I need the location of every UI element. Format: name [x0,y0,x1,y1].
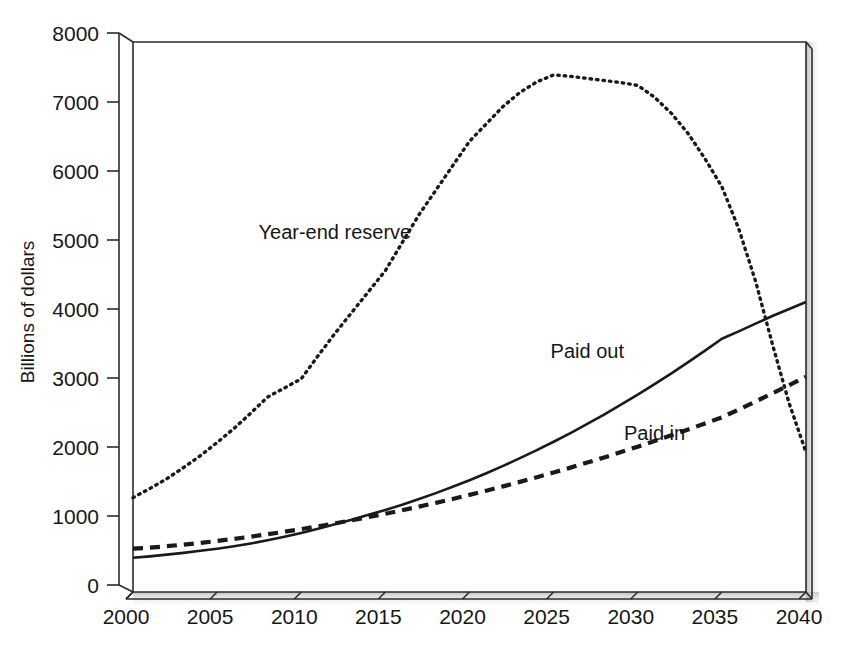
x-tick-label-2030: 2030 [607,605,654,628]
y-axis-ticks [107,33,119,585]
series-layer [133,75,806,558]
x-tick-label-2010: 2010 [271,605,318,628]
y-axis-title: Billions of dollars [17,241,38,384]
plot-shadow [133,42,822,608]
y-tick-1000: 1000 [52,505,99,528]
series-line-paid-in [133,377,806,549]
series-label-paid-in: Paid in [624,422,685,444]
y-tick-2000: 2000 [52,436,99,459]
y-axis-labels: 8000 7000 6000 5000 4000 3000 2000 1000 … [52,22,99,597]
x-tick-label-2000: 2000 [103,605,150,628]
series-line-paid-out [133,302,806,558]
x-tick-label-2005: 2005 [187,605,234,628]
x-axis-labels: 200020052010201520202025203020352040 [103,605,823,628]
y-tick-7000: 7000 [52,91,99,114]
chart-container: 8000 7000 6000 5000 4000 3000 2000 1000 … [0,0,845,655]
y-tick-3000: 3000 [52,367,99,390]
x-tick-2000 [126,592,133,599]
series-line-year-end-reserve [133,75,806,498]
x-tick-label-2025: 2025 [523,605,570,628]
series-label-paid-out: Paid out [551,340,625,362]
axis-frame [119,33,812,599]
y-tick-4000: 4000 [52,298,99,321]
series-label-year-end-reserve: Year-end reserve [259,221,412,243]
y-tick-0: 0 [87,574,99,597]
x-tick-label-2015: 2015 [355,605,402,628]
line-chart: 8000 7000 6000 5000 4000 3000 2000 1000 … [0,0,845,655]
y-tick-5000: 5000 [52,229,99,252]
x-tick-label-2040: 2040 [776,605,823,628]
x-tick-label-2020: 2020 [439,605,486,628]
x-tick-label-2035: 2035 [692,605,739,628]
y-tick-6000: 6000 [52,160,99,183]
y-tick-8000: 8000 [52,22,99,45]
